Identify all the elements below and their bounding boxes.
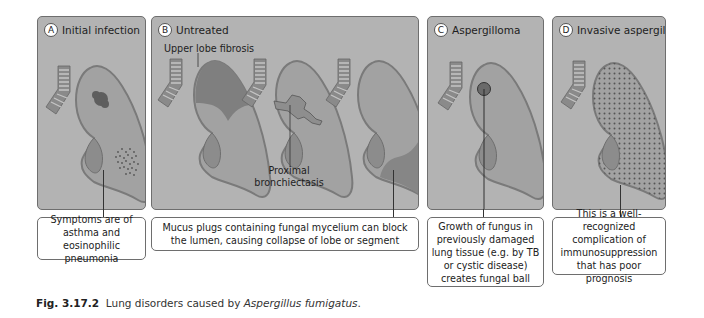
label-proximal-bronchiectasis: Proximal bronchiectasis [254,165,324,189]
lung-illustration-icon [428,17,544,210]
lung-illustration-icon [553,17,666,210]
description-box-d: This is a well-recognized complication o… [552,217,666,275]
figure-caption: Fig. 3.17.2 Lung disorders caused by Asp… [36,297,361,309]
leader-line [483,209,484,217]
panel-initial-infection: A Initial infection [37,16,146,210]
panel-untreated: B Untreated Upper lobe fibrosis Proximal [151,16,419,210]
panel-invasive-aspergillosis: D Invasive aspergillosis [552,16,666,210]
panel-aspergilloma: C Aspergilloma [427,16,544,210]
label-upper-lobe-fibrosis: Upper lobe fibrosis [164,43,254,55]
leader-line [103,170,104,217]
label-line: bronchiectasis [254,177,324,189]
description-box-b: Mucus plugs containing fungal mycelium c… [151,217,419,251]
organism-name: Aspergillus fumigatus [244,297,358,309]
caption-end: . [358,297,361,309]
caption-text: Lung disorders caused by [106,297,241,309]
lung-illustration-icon [38,17,146,210]
figure-number: Fig. 3.17.2 [36,297,99,309]
description-box-a: Symptoms are of asthma and eosinophilic … [37,217,146,260]
leader-line [393,170,394,217]
label-line: Proximal [254,165,324,177]
description-box-c: Growth of fungus in previously damaged l… [427,217,544,287]
